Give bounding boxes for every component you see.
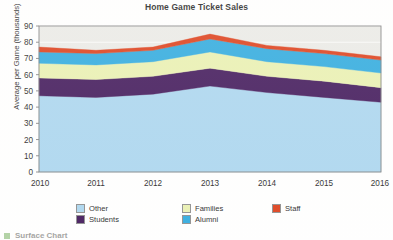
y-tick-label: 50 xyxy=(24,87,34,96)
y-tick-label: 90 xyxy=(24,22,34,31)
legend-item-other[interactable]: Other xyxy=(76,203,182,214)
x-tick-label: 2016 xyxy=(371,179,390,188)
legend-swatch-other-icon xyxy=(76,204,85,213)
legend-item-spacer xyxy=(272,214,352,225)
x-tick-label: 2011 xyxy=(87,179,105,188)
y-tick-label: 20 xyxy=(24,136,34,145)
footer-note: Surface Chart xyxy=(4,231,67,240)
y-tick-label: 10 xyxy=(24,152,34,161)
legend-item-families[interactable]: Families xyxy=(182,203,272,214)
legend-item-students[interactable]: Students xyxy=(76,214,182,225)
legend-label-families: Families xyxy=(195,203,223,214)
legend-swatch-families-icon xyxy=(182,204,191,213)
legend-row-1: Other Families Staff xyxy=(76,203,376,214)
footer-note-label: Surface Chart xyxy=(15,231,67,240)
y-tick-label: 0 xyxy=(28,168,33,177)
y-tick-label: 60 xyxy=(24,71,34,80)
legend-swatch-alumni-icon xyxy=(182,215,191,224)
x-tick-label: 2014 xyxy=(258,179,277,188)
legend-swatch-students-icon xyxy=(76,215,85,224)
legend-item-alumni[interactable]: Alumni xyxy=(182,214,272,225)
plot-area: 0102030405060708090 20102011201220132014… xyxy=(0,0,393,200)
x-tick-label: 2013 xyxy=(201,179,220,188)
legend-item-staff[interactable]: Staff xyxy=(272,203,352,214)
legend-label-other: Other xyxy=(89,203,108,214)
area-series-other xyxy=(39,86,381,172)
y-tick-label: 70 xyxy=(24,54,34,63)
y-tick-label: 30 xyxy=(24,119,34,128)
chart-legend: Other Families Staff Students Alumni xyxy=(76,203,376,225)
legend-label-alumni: Alumni xyxy=(195,214,218,225)
legend-swatch-staff-icon xyxy=(272,204,281,213)
y-tick-label: 80 xyxy=(24,38,34,47)
y-tick-label: 40 xyxy=(24,103,34,112)
legend-label-staff: Staff xyxy=(285,203,300,214)
footer-bullet-icon xyxy=(4,233,10,239)
x-tick-label: 2015 xyxy=(315,179,334,188)
x-tick-label: 2010 xyxy=(31,179,50,188)
chart-container: Home Game Ticket Sales Average per Game … xyxy=(0,0,393,240)
x-tick-label: 2012 xyxy=(144,179,163,188)
legend-row-2: Students Alumni xyxy=(76,214,376,225)
legend-label-students: Students xyxy=(89,214,119,225)
